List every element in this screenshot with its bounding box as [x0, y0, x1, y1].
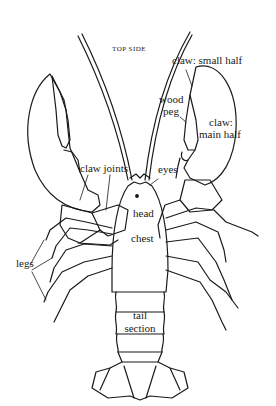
label-wood-peg-line2: peg	[162, 106, 180, 117]
label-eyes: eyes	[158, 164, 178, 175]
view-label: TOP SIDE	[112, 44, 146, 55]
label-tail-line2: section	[120, 323, 160, 334]
right-legs	[166, 208, 258, 330]
left-legs	[44, 218, 112, 322]
label-legs: legs	[16, 258, 34, 269]
label-claw-main-half-line2: main half	[190, 129, 250, 140]
label-wood-peg-line1: wood	[159, 94, 183, 105]
label-claw-small-half: claw: small half	[172, 55, 242, 66]
left-claw	[28, 74, 100, 212]
label-head: head	[133, 208, 154, 219]
label-claw-main-half-line1: claw:	[196, 117, 246, 128]
label-chest: chest	[131, 233, 154, 244]
label-tail-line1: tail	[125, 310, 155, 321]
label-claw-joints: claw joints	[80, 163, 128, 174]
